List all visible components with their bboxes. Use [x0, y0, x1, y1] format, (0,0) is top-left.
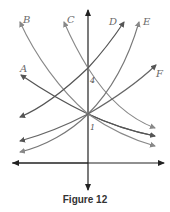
curve-label-c: C: [67, 14, 75, 25]
curve-label-f: F: [155, 68, 164, 79]
exponential-graph: B C D E A F 4 1: [0, 0, 170, 212]
curve-label-b: B: [22, 14, 30, 25]
curve-d: [88, 22, 124, 68]
curve-label-a: A: [19, 63, 27, 74]
curve-label-d: D: [108, 16, 117, 27]
y-intercept-label-lower: 1: [90, 123, 95, 132]
curve-label-e: E: [142, 16, 151, 27]
curve-f: [88, 65, 156, 114]
curve-c: [64, 22, 88, 68]
figure-caption: Figure 12: [0, 194, 170, 205]
y-intercept-label-upper: 4: [89, 76, 95, 85]
curve-b: [20, 22, 88, 114]
